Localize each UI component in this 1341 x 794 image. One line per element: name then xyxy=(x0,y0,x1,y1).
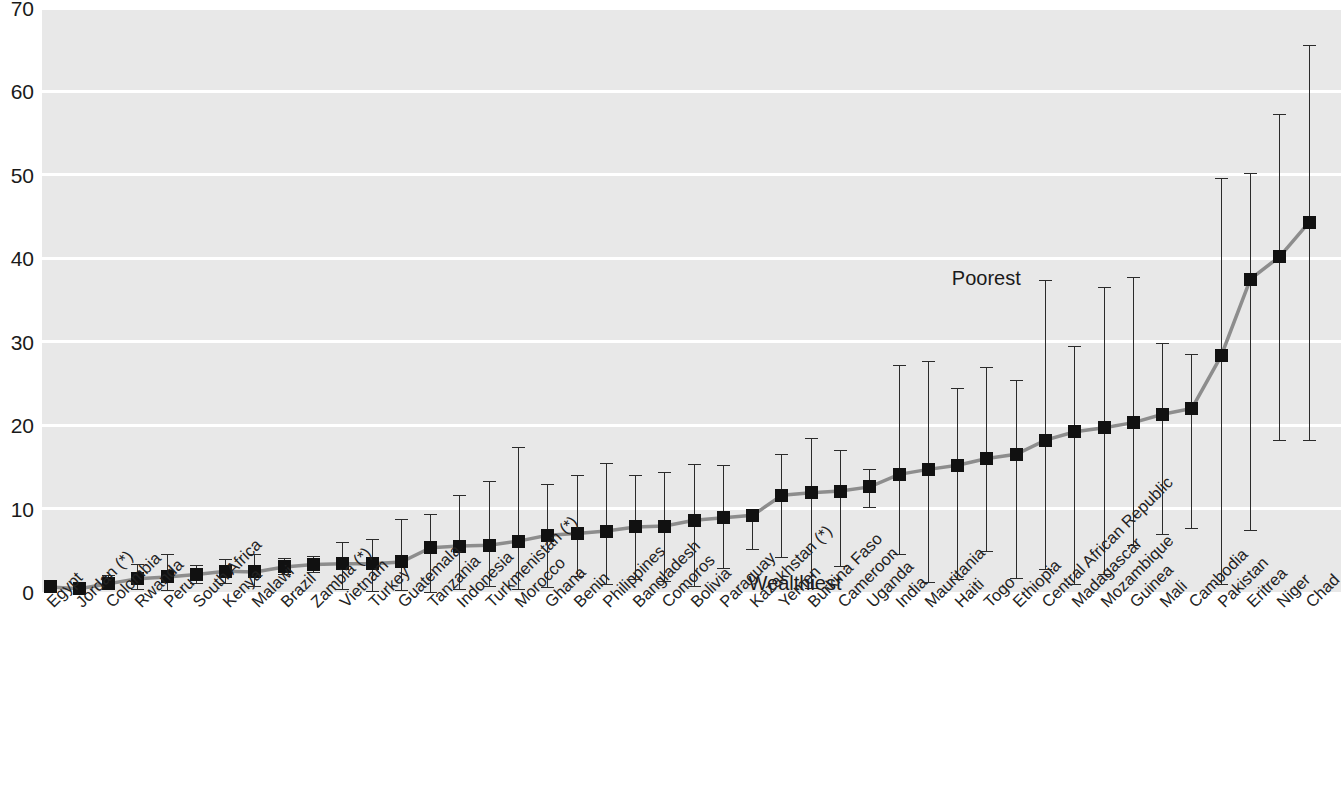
x-axis-labels: EgyptJordan (*)ColombiaRwandaPeruSouth A… xyxy=(0,592,1341,794)
chart-container: 010203040506070 PoorestWealthiest EgyptJ… xyxy=(0,0,1341,794)
annotation-poorest: Poorest xyxy=(952,267,1021,290)
